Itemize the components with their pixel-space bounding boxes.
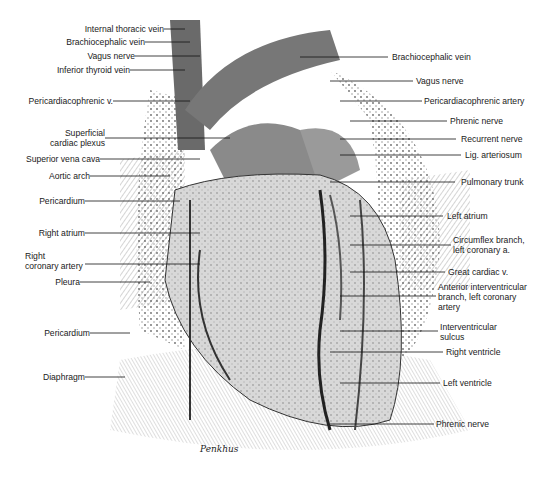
label-brachiocephalic-vein-left: Brachiocephalic vein (66, 37, 145, 47)
label-diaphragm: Diaphragm (43, 372, 85, 382)
label-anterior-interventricular-branch: Anterior interventricular branch, left c… (438, 282, 527, 312)
label-line-2: cardiac plexus (50, 138, 105, 148)
label-inferior-thyroid-vein: Inferior thyroid vein (57, 65, 130, 75)
label-vagus-nerve-left: Vagus nerve (87, 51, 135, 61)
label-line-2: sulcus (440, 332, 497, 342)
label-superior-vena-cava: Superior vena cava (26, 154, 100, 164)
label-line-2: branch, left coronary (438, 292, 527, 302)
label-internal-thoracic-vein: Internal thoracic vein (85, 24, 164, 34)
label-pericardium-lower: Pericardium (44, 328, 90, 338)
label-pleura: Pleura (55, 277, 80, 287)
label-brachiocephalic-vein-right: Brachiocephalic vein (392, 52, 471, 62)
label-left-ventricle: Left ventricle (443, 378, 492, 388)
label-aortic-arch: Aortic arch (49, 171, 90, 181)
label-pulmonary-trunk: Pulmonary trunk (461, 177, 524, 187)
artist-signature: Penkhus (200, 444, 238, 454)
label-right-atrium: Right atrium (39, 228, 85, 238)
label-right-coronary-artery: Right coronary artery (25, 251, 83, 271)
label-vagus-nerve-right: Vagus nerve (416, 76, 464, 86)
label-line-3: artery (438, 302, 527, 312)
heart-anatomy-figure: Internal thoracic vein Brachiocephalic v… (0, 0, 550, 480)
label-line-1: Interventricular (440, 322, 497, 332)
label-left-atrium: Left atrium (447, 211, 488, 221)
label-pericardiacophrenic-v: Pericardiacophrenic v. (29, 96, 113, 106)
label-right-ventricle: Right ventricle (446, 347, 500, 357)
label-line-1: Superficial (50, 128, 105, 138)
label-line-2: left coronary a. (453, 245, 525, 255)
label-interventricular-sulcus: Interventricular sulcus (440, 322, 497, 342)
label-recurrent-nerve: Recurrent nerve (461, 134, 523, 144)
label-superficial-cardiac-plexus: Superficial cardiac plexus (50, 128, 105, 148)
label-line-2: coronary artery (25, 261, 83, 271)
label-line-1: Anterior interventricular (438, 282, 527, 292)
label-great-cardiac-v: Great cardiac v. (448, 267, 508, 277)
label-line-1: Circumflex branch, (453, 235, 525, 245)
label-phrenic-nerve-lower: Phrenic nerve (436, 419, 489, 429)
label-phrenic-nerve-upper: Phrenic nerve (450, 116, 503, 126)
label-pericardium-upper: Pericardium (39, 196, 85, 206)
label-pericardiacophrenic-artery: Pericardiacophrenic artery (424, 96, 524, 106)
label-circumflex-branch: Circumflex branch, left coronary a. (453, 235, 525, 255)
label-lig-arteriosum: Lig. arteriosum (465, 150, 522, 160)
label-line-1: Right (25, 251, 83, 261)
